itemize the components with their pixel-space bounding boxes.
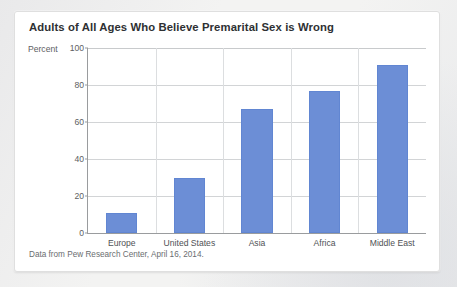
y-axis-tick-mark	[85, 196, 88, 197]
gridline	[88, 85, 426, 86]
x-axis-tick-label: Africa	[314, 238, 336, 248]
bar-europe	[106, 213, 137, 233]
chart-card: Adults of All Ages Who Believe Premarita…	[14, 11, 440, 272]
y-axis-tick-label: 20	[74, 191, 84, 201]
y-axis-tick-label: 0	[79, 228, 84, 238]
x-axis-tick-label: Asia	[249, 238, 266, 248]
y-axis-tick-mark	[85, 159, 88, 160]
x-axis-tick-label: Middle East	[370, 238, 415, 248]
source-note: Data from Pew Research Center, April 16,…	[29, 250, 204, 259]
y-axis-tick-mark	[85, 122, 88, 123]
category-separator	[358, 48, 359, 233]
bar-united-states	[174, 178, 205, 234]
category-separator	[223, 48, 224, 233]
bar-africa	[309, 91, 340, 233]
x-axis-tick-label: United States	[164, 238, 216, 248]
bar-asia	[241, 109, 272, 233]
chart-screenshot: Adults of All Ages Who Believe Premarita…	[0, 0, 457, 287]
plot-wrapper: 020406080100EuropeUnited StatesAsiaAfric…	[15, 12, 441, 273]
y-axis-tick-mark	[85, 48, 88, 49]
plot-area: 020406080100EuropeUnited StatesAsiaAfric…	[87, 48, 426, 234]
gridline	[88, 48, 426, 49]
category-separator	[156, 48, 157, 233]
y-axis-tick-mark	[85, 233, 88, 234]
y-axis-tick-label: 60	[74, 117, 84, 127]
x-axis-tick-label: Europe	[108, 238, 136, 248]
category-separator	[291, 48, 292, 233]
y-axis-tick-label: 100	[70, 43, 84, 53]
y-axis-tick-mark	[85, 85, 88, 86]
y-axis-tick-label: 40	[74, 154, 84, 164]
bar-middle-east	[377, 65, 408, 233]
y-axis-tick-label: 80	[74, 80, 84, 90]
